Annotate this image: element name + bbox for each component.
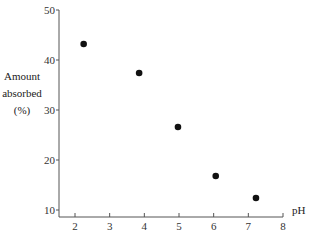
axes [59, 10, 283, 217]
data-point-marker [253, 195, 260, 202]
y-tick-label: 20 [44, 154, 56, 166]
data-point-marker [136, 70, 143, 77]
data-point-marker [212, 173, 219, 180]
x-axis-ticks: 2345678 [72, 213, 286, 232]
data-points [80, 41, 259, 202]
data-point-marker [175, 124, 182, 131]
y-axis-label-line: Amount [4, 70, 40, 82]
scatter-chart: 1020304050 2345678 pH Amountabsorbed(%) [0, 0, 313, 235]
y-axis-label-line: (%) [14, 104, 31, 117]
y-tick-label: 50 [44, 4, 56, 16]
y-tick-label: 10 [44, 204, 56, 216]
y-tick-label: 40 [44, 54, 56, 66]
x-tick-label: 8 [280, 220, 286, 232]
x-tick-label: 5 [176, 220, 182, 232]
y-tick-label: 30 [44, 104, 56, 116]
x-tick-label: 2 [72, 220, 78, 232]
x-tick-label: 4 [142, 220, 148, 232]
data-point-marker [80, 41, 87, 48]
x-tick-label: 7 [246, 220, 252, 232]
y-axis-label: Amountabsorbed(%) [2, 70, 42, 117]
x-axis-label: pH [292, 204, 306, 216]
y-axis-label-line: absorbed [2, 87, 42, 99]
x-tick-label: 3 [107, 220, 113, 232]
y-axis-ticks: 1020304050 [44, 4, 59, 216]
x-tick-label: 6 [211, 220, 217, 232]
